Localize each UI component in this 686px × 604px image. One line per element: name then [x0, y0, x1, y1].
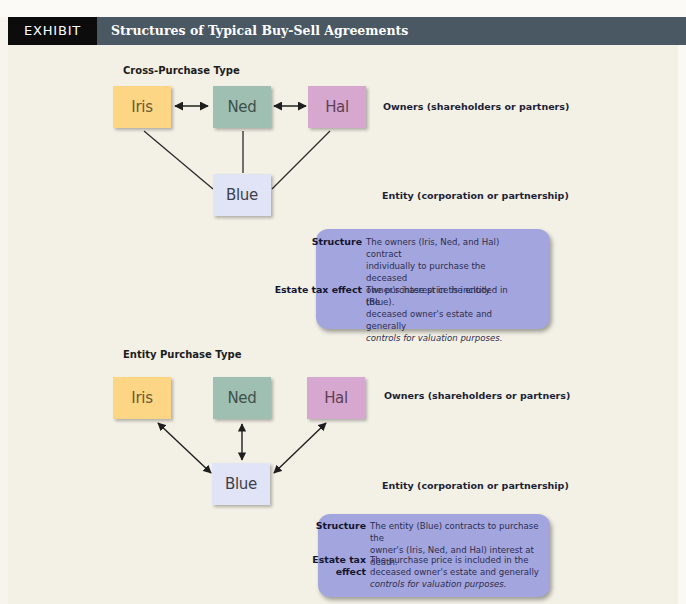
tax-line-italic: controls for valuation purposes. [370, 579, 507, 589]
tax-line: deceased owner's estate and generally [370, 566, 545, 578]
tax-effect-row: Estate tax effect The purchase price is … [306, 554, 545, 590]
arrow-hal-blue [274, 423, 326, 473]
arrow-iris-blue [158, 423, 211, 473]
entity-label: Entity (corporation or partnership) [382, 190, 569, 201]
tax-effect-text: The purchase price is included in the de… [366, 284, 516, 344]
node-ned: Ned [213, 86, 271, 128]
entity-purchase-heading: Entity Purchase Type [123, 349, 241, 360]
line-iris-blue [144, 131, 213, 189]
tax-line: The purchase price is included in the [370, 554, 545, 566]
node-iris: Iris [113, 86, 171, 128]
tax-line: deceased owner's estate and generally [366, 308, 516, 332]
owners-label: Owners (shareholders or partners) [383, 101, 569, 112]
tax-effect-key: Estate tax effect [264, 284, 366, 344]
structure-line: The owners (Iris, Ned, and Hal) contract [366, 236, 516, 260]
tax-effect-text: The purchase price is included in the de… [370, 554, 545, 590]
node-hal: Hal [308, 86, 366, 128]
entity-label: Entity (corporation or partnership) [382, 480, 569, 491]
tax-effect-key: Estate tax effect [306, 554, 370, 590]
node-iris: Iris [113, 377, 171, 419]
node-blue-entity: Blue [213, 174, 271, 216]
structure-line: The entity (Blue) contracts to purchase … [370, 520, 545, 544]
node-blue-entity: Blue [212, 463, 270, 505]
node-hal: Hal [307, 377, 365, 419]
tax-line: The purchase price is included in the [366, 284, 516, 308]
owners-label: Owners (shareholders or partners) [384, 390, 570, 401]
line-hal-blue [272, 131, 330, 189]
entity-purchase-infobox: Structure The entity (Blue) contracts to… [318, 514, 550, 597]
node-ned: Ned [213, 377, 271, 419]
cross-purchase-infobox: Structure The owners (Iris, Ned, and Hal… [316, 229, 550, 329]
structure-line: individually to purchase the deceased [366, 260, 516, 284]
cross-purchase-heading: Cross-Purchase Type [123, 65, 240, 76]
tax-effect-row: Estate tax effect The purchase price is … [264, 284, 516, 344]
tax-line-italic: controls for valuation purposes. [366, 333, 503, 343]
